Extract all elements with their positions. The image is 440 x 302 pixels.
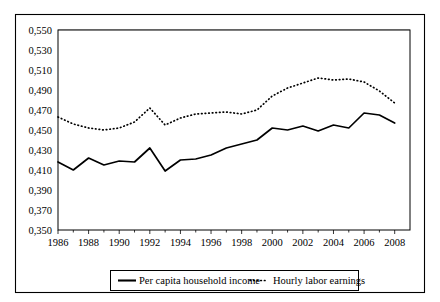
y-tick-label: 0,390 <box>28 185 52 196</box>
x-tick-label: 1996 <box>201 237 222 248</box>
legend-label-1: Per capita household income <box>139 275 260 286</box>
y-tick-label: 0,530 <box>28 45 52 56</box>
y-tick-label: 0,410 <box>28 165 52 176</box>
y-tick-label: 0,450 <box>28 125 52 136</box>
legend-label-2: Hourly labor earnings <box>273 275 365 286</box>
x-tick-label: 1998 <box>231 237 252 248</box>
chart-figure: 0,3500,3700,3900,4100,4300,4500,4700,490… <box>0 0 440 302</box>
y-tick-label: 0,490 <box>28 85 52 96</box>
line-chart: 0,3500,3700,3900,4100,4300,4500,4700,490… <box>0 0 440 302</box>
x-tick-label: 1990 <box>109 237 130 248</box>
x-tick-label: 1994 <box>170 237 192 248</box>
x-tick-label: 2006 <box>354 237 375 248</box>
plot-area-frame <box>58 30 410 230</box>
x-tick-label: 2008 <box>384 237 405 248</box>
y-tick-label: 0,370 <box>28 205 52 216</box>
y-tick-label: 0,430 <box>28 145 52 156</box>
y-tick-label: 0,510 <box>28 65 52 76</box>
x-tick-label: 1986 <box>48 237 69 248</box>
y-tick-label: 0,350 <box>28 225 52 236</box>
chart-legend: Per capita household incomeHourly labor … <box>111 271 366 291</box>
x-tick-label: 2000 <box>262 237 283 248</box>
x-tick-label: 1988 <box>78 237 99 248</box>
y-tick-label: 0,550 <box>28 25 52 36</box>
x-tick-label: 2002 <box>292 237 313 248</box>
x-tick-label: 1992 <box>139 237 160 248</box>
y-tick-label: 0,470 <box>28 105 52 116</box>
x-tick-label: 2004 <box>323 237 345 248</box>
